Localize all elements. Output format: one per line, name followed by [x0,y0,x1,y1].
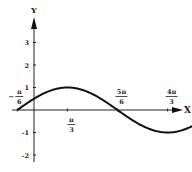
axes [12,17,183,162]
ticks [17,43,192,156]
y-axis-arrow-icon [31,17,37,29]
svg-text:−: − [8,92,14,101]
svg-text:π: π [69,116,74,124]
svg-text:3: 3 [69,126,74,134]
y-tick-label: -2 [22,152,29,160]
svg-text:6: 6 [119,98,124,106]
x-axis-arrow-icon [172,107,183,113]
svg-text:4π: 4π [167,88,177,96]
svg-text:π: π [17,88,22,96]
x-tick-label: π6− [8,88,23,106]
svg-text:6: 6 [17,98,22,106]
y-tick-label: -1 [22,129,29,137]
x-tick-label: 5π6 [116,88,128,106]
x-tick-label: π3 [67,116,75,134]
x-tick-label: 4π3 [166,88,178,106]
svg-text:5π: 5π [117,88,127,96]
svg-text:3: 3 [169,98,174,106]
sine-chart: 321-1-2π6−π35π64π311π6 X Y [0,0,192,172]
y-tick-label: 3 [24,39,29,47]
y-axis-label: Y [30,5,37,15]
x-axis-label: X [184,105,191,115]
y-tick-label: 1 [24,84,29,92]
y-tick-label: 2 [24,62,29,70]
